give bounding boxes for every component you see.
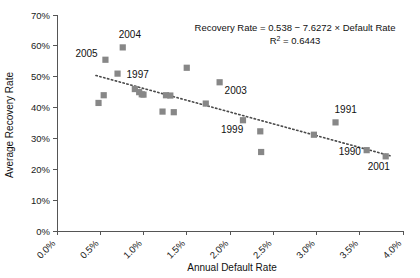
y-tick-label: 10% — [31, 195, 51, 206]
y-axis-group: 0%10%20%30%40%50%60%70% — [31, 10, 57, 237]
chart-canvas: 0%10%20%30%40%50%60%70% 0.0%0.5%1.0%1.5%… — [0, 0, 420, 278]
x-tick-label: 2.5% — [251, 237, 274, 260]
data-point-marker — [159, 108, 165, 114]
y-axis-ticks: 0%10%20%30%40%50%60%70% — [31, 10, 57, 237]
data-point-marker — [364, 147, 370, 153]
data-point-label: 2004 — [119, 29, 142, 40]
data-point-label: 1991 — [335, 104, 358, 115]
scatter-chart: 0%10%20%30%40%50%60%70% 0.0%0.5%1.0%1.5%… — [0, 0, 420, 278]
r-squared-value: = 0.6443 — [280, 35, 320, 46]
data-point-marker — [140, 92, 146, 98]
x-axis-ticks: 0.0%0.5%1.0%1.5%2.0%2.5%3.0%3.5%4.0% — [34, 231, 403, 261]
x-tick-label: 2.0% — [207, 237, 230, 260]
x-tick-label: 0.0% — [34, 237, 57, 260]
data-point-label: 2003 — [225, 85, 248, 96]
data-point-marker — [167, 92, 173, 98]
data-point-label: 2005 — [75, 48, 98, 59]
data-point-marker — [240, 117, 246, 123]
x-tick-label: 3.0% — [294, 237, 317, 260]
data-point-label: 1997 — [127, 69, 150, 80]
data-point-marker — [171, 109, 177, 115]
data-point-marker — [332, 119, 338, 125]
y-tick-label: 60% — [31, 40, 51, 51]
x-tick-label: 0.5% — [78, 237, 101, 260]
data-points-group — [95, 44, 388, 159]
x-tick-label: 1.0% — [121, 237, 144, 260]
r-squared-text: R2 = 0.6443 — [270, 35, 321, 47]
data-point-marker — [257, 128, 263, 134]
data-point-marker — [114, 71, 120, 77]
y-tick-label: 20% — [31, 164, 51, 175]
x-tick-label: 1.5% — [164, 237, 187, 260]
data-point-label: 2001 — [368, 161, 391, 172]
y-tick-label: 70% — [31, 10, 51, 21]
x-tick-label: 3.5% — [337, 237, 360, 260]
x-tick-label: 4.0% — [380, 237, 403, 260]
x-axis-group: 0.0%0.5%1.0%1.5%2.0%2.5%3.0%3.5%4.0% — [34, 231, 403, 261]
data-point-marker — [217, 79, 223, 85]
x-axis-title: Annual Default Rate — [187, 262, 277, 273]
data-point-marker — [102, 57, 108, 63]
y-axis-title: Average Recovery Rate — [4, 72, 15, 178]
point-labels-group: 20052004199720031999199119902001 — [75, 29, 390, 172]
data-point-marker — [95, 100, 101, 106]
data-point-marker — [311, 132, 317, 138]
data-point-marker — [258, 149, 264, 155]
regression-equation-text: Recovery Rate = 0.538 − 7.6272 × Default… — [195, 22, 396, 33]
y-tick-label: 40% — [31, 102, 51, 113]
data-point-label: 1999 — [221, 124, 244, 135]
y-tick-label: 50% — [31, 71, 51, 82]
y-tick-label: 0% — [36, 226, 50, 237]
data-point-marker — [101, 92, 107, 98]
data-point-marker — [184, 65, 190, 71]
data-point-label: 1990 — [339, 146, 362, 157]
y-tick-label: 30% — [31, 133, 51, 144]
data-point-marker — [383, 153, 389, 159]
data-point-marker — [120, 44, 126, 50]
data-point-marker — [203, 100, 209, 106]
